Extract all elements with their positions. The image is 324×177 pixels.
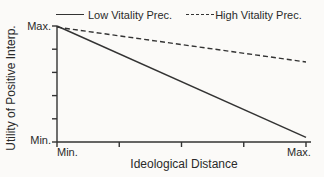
x-axis-title: Ideological Distance [57,157,311,171]
series-line-high-vitality [57,27,306,62]
series-line-low-vitality [57,26,306,137]
plot-area [0,0,324,177]
vitality-utility-line-chart: Low Vitality Prec. High Vitality Prec. U… [0,0,324,177]
